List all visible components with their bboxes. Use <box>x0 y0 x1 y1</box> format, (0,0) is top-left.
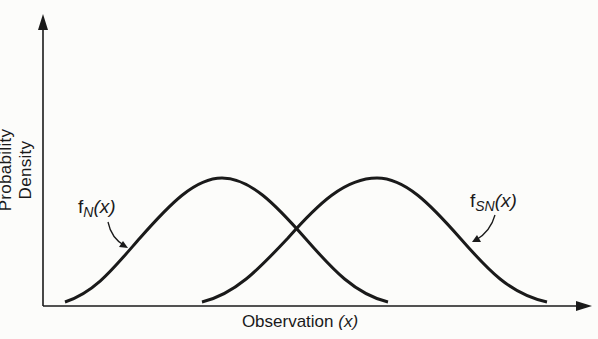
fsn-arrowhead <box>472 235 481 242</box>
x-axis-arrowhead <box>576 301 592 311</box>
y-axis-arrowhead <box>38 14 48 30</box>
label-fsn: fSN(x) <box>470 190 517 214</box>
label-fsn-sub: SN <box>475 198 494 214</box>
x-axis-label: Observation (x) <box>200 312 400 332</box>
label-fn-arg: (x) <box>93 196 115 217</box>
x-axis-label-text: Observation <box>242 312 334 331</box>
chart-canvas <box>0 0 598 339</box>
arrow-fsn-pointer <box>476 215 495 240</box>
label-fn-sub: N <box>83 204 93 220</box>
x-axis-label-var: (x) <box>338 312 358 331</box>
label-fsn-arg: (x) <box>495 190 517 211</box>
label-fn: fN(x) <box>78 196 116 220</box>
y-axis-label: Probability Density <box>0 100 36 240</box>
fn-arrowhead <box>119 241 128 248</box>
